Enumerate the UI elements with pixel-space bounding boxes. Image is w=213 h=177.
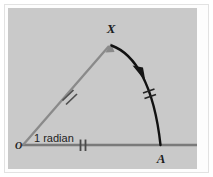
label-point-a: A xyxy=(156,151,166,166)
radian-diagram-svg: X A O 1 radian xyxy=(8,8,197,169)
figure-plate: X A O 1 radian xyxy=(8,8,197,169)
label-point-o: O xyxy=(15,140,22,151)
annotation-one-radian: 1 radian xyxy=(34,132,74,144)
radius-line-ox xyxy=(23,46,109,145)
label-point-x: X xyxy=(106,21,116,36)
figure-frame: X A O 1 radian xyxy=(0,0,213,177)
arrowhead-arc-direction-icon xyxy=(133,66,146,82)
